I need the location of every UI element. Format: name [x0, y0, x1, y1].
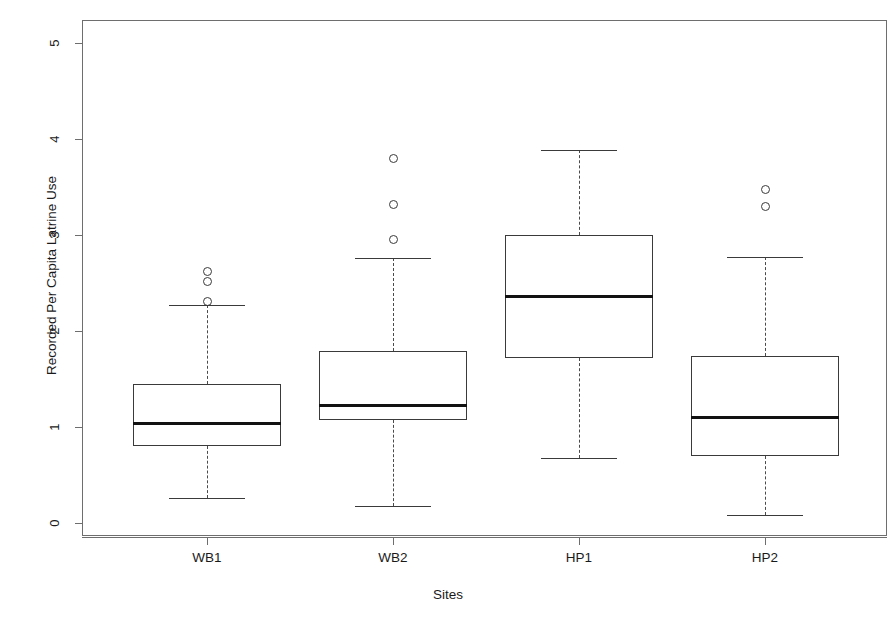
outlier-point [203, 277, 212, 286]
x-tick-label-hp2: HP2 [720, 550, 810, 565]
y-tick-label: 5 [48, 32, 62, 54]
outlier-point [389, 235, 398, 244]
x-tick-mark [765, 538, 766, 545]
outlier-point [389, 154, 398, 163]
y-tick-mark [75, 427, 82, 428]
upper-whisker [765, 257, 766, 356]
upper-whisker-cap [727, 257, 803, 258]
box-rect [691, 356, 839, 456]
lower-whisker-cap [541, 458, 617, 459]
lower-whisker [579, 358, 580, 458]
box-rect [133, 384, 281, 446]
median-line [691, 416, 839, 419]
y-tick-mark [75, 43, 82, 44]
plot-frame [82, 20, 887, 536]
x-tick-mark [579, 538, 580, 545]
chart-title [0, 0, 896, 3]
y-tick-mark [75, 235, 82, 236]
median-line [505, 295, 653, 298]
lower-whisker [393, 420, 394, 505]
lower-whisker-cap [355, 506, 431, 507]
outlier-point [761, 202, 770, 211]
y-tick-mark [75, 139, 82, 140]
box-rect [319, 351, 467, 420]
boxplot-chart: 012345 Recorded Per Capita Latrine Use W… [0, 0, 896, 619]
median-line [133, 422, 281, 425]
y-tick-mark [75, 523, 82, 524]
x-tick-label-wb1: WB1 [162, 550, 252, 565]
lower-whisker-cap [169, 498, 245, 499]
upper-whisker-cap [541, 150, 617, 151]
median-line [319, 404, 467, 407]
y-tick-label: 0 [48, 512, 62, 534]
upper-whisker [207, 305, 208, 384]
y-tick-mark [75, 331, 82, 332]
outlier-point [761, 185, 770, 194]
x-axis-title: Sites [0, 587, 896, 602]
y-axis-title: Recorded Per Capita Latrine Use [44, 146, 59, 406]
lower-whisker [207, 446, 208, 498]
lower-whisker-cap [727, 515, 803, 516]
outlier-point [203, 267, 212, 276]
upper-whisker [393, 258, 394, 351]
x-axis-line [82, 537, 887, 538]
x-tick-mark [393, 538, 394, 545]
upper-whisker [579, 150, 580, 235]
lower-whisker [765, 456, 766, 516]
x-tick-label-wb2: WB2 [348, 550, 438, 565]
outlier-point [203, 297, 212, 306]
y-tick-label: 1 [48, 416, 62, 438]
x-tick-label-hp1: HP1 [534, 550, 624, 565]
x-tick-mark [207, 538, 208, 545]
outlier-point [389, 200, 398, 209]
upper-whisker-cap [355, 258, 431, 259]
